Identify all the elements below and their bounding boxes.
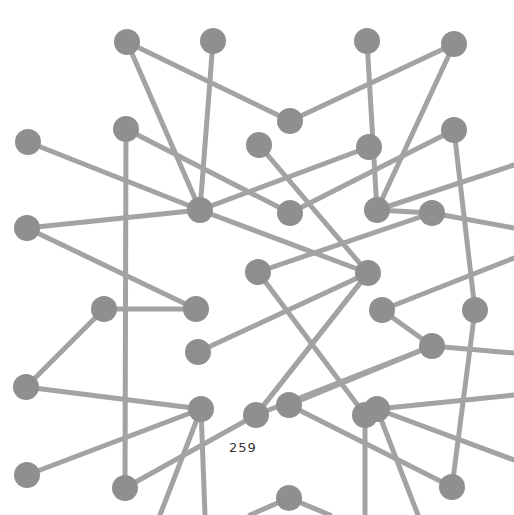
diagram-node [355,260,381,286]
diagram-node [187,197,213,223]
diagram-node [439,474,465,500]
diagram-node [200,28,226,54]
diagram-edge [377,395,514,409]
diagram-node [243,402,269,428]
diagram-edge [160,409,201,515]
diagram-node [364,197,390,223]
diagram-node [188,396,214,422]
diagram-node [462,297,488,323]
diagram-node [13,374,39,400]
diagram-node [441,117,467,143]
diagram-node [441,31,467,57]
diagram-node [183,296,209,322]
diagram-edge [382,258,514,310]
page-number: 259 [229,440,257,455]
diagram-edge [198,273,368,352]
diagram-edge [200,41,213,210]
diagram-node [354,28,380,54]
diagram-node [185,339,211,365]
diagram-node [419,200,445,226]
diagram-node [245,259,271,285]
diagram-edge [377,165,514,210]
diagram-edge [26,309,104,387]
diagram-edge [377,409,514,460]
diagram-node [112,475,138,501]
diagram-edge [201,409,205,515]
diagram-node [419,333,445,359]
diagram-edge [27,210,200,228]
diagram-node [352,402,378,428]
diagram-node [91,296,117,322]
diagram-node [15,129,41,155]
diagram-edge [26,387,201,409]
diagram-node [277,108,303,134]
diagram-node [14,215,40,241]
diagram-node [113,116,139,142]
diagram-node [277,200,303,226]
diagram-edge [27,228,196,309]
diagram-node [246,132,272,158]
network-diagram [0,0,514,515]
diagram-node [276,485,302,511]
diagram-node [276,392,302,418]
diagram-node [356,134,382,160]
diagram-edge [27,409,201,475]
diagram-node [369,297,395,323]
diagram-edge [367,41,377,210]
diagram-edge [377,409,418,515]
diagram-node [14,462,40,488]
diagram-edges [26,41,514,515]
diagram-node [114,29,140,55]
